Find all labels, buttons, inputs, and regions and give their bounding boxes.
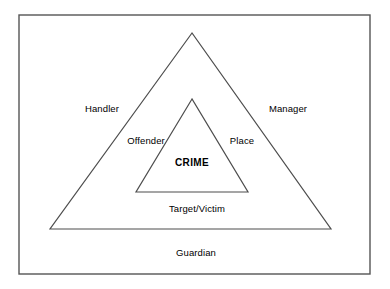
- label-place: Place: [230, 135, 254, 146]
- label-manager: Manager: [269, 103, 307, 114]
- crime-triangle-diagram: Handler Manager Offender Place CRIME Tar…: [0, 0, 390, 289]
- label-target-victim: Target/Victim: [169, 203, 225, 214]
- label-crime: CRIME: [175, 157, 209, 168]
- label-guardian: Guardian: [176, 247, 216, 258]
- label-offender: Offender: [127, 135, 165, 146]
- label-handler: Handler: [85, 103, 119, 114]
- diagram-frame: [19, 15, 370, 274]
